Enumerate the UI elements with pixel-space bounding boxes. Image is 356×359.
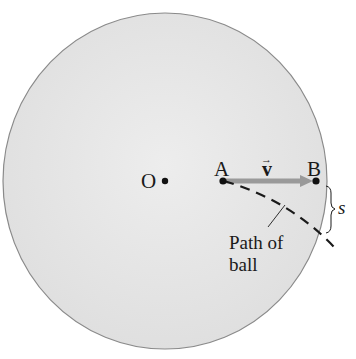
label-o: O <box>141 169 156 193</box>
label-v-arrow: → <box>261 153 272 165</box>
center-point-o <box>162 178 168 184</box>
arc-length-brace <box>326 186 335 233</box>
label-b: B <box>307 157 321 181</box>
label-path-line2: ball <box>229 254 258 275</box>
label-a: A <box>214 157 230 181</box>
rotating-disk-diagram: O A B v → s Path of ball <box>0 0 356 359</box>
label-path-line1: Path of <box>229 232 284 253</box>
label-s: s <box>338 197 345 218</box>
